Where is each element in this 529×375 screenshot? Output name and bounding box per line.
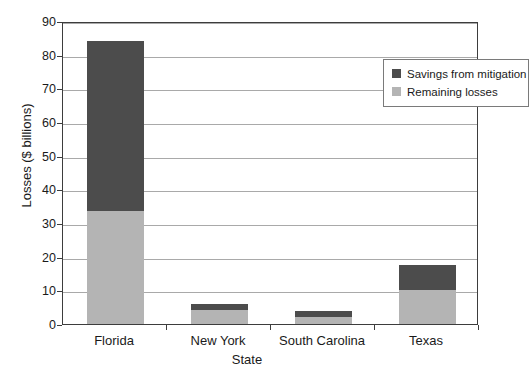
y-tick-label: 60 xyxy=(0,117,56,130)
legend-swatch-icon xyxy=(392,69,401,78)
x-tick-mark xyxy=(374,325,375,330)
bar-texas xyxy=(399,265,456,324)
bar-segment-savings-from-mitigation xyxy=(87,41,144,211)
y-tick-label: 30 xyxy=(0,218,56,231)
bar-segment-remaining-losses xyxy=(87,211,144,324)
legend-item-label: Savings from mitigation xyxy=(407,68,527,80)
y-tick-label: 50 xyxy=(0,151,56,164)
bar-segment-remaining-losses xyxy=(295,317,352,324)
legend: Savings from mitigation Remaining losses xyxy=(383,59,529,107)
legend-swatch-icon xyxy=(392,87,401,96)
x-tick-label: New York xyxy=(166,333,270,348)
bar-new-york xyxy=(191,304,248,324)
bar-segment-remaining-losses xyxy=(191,310,248,324)
x-tick-mark xyxy=(270,325,271,330)
legend-item-savings-from-mitigation: Savings from mitigation xyxy=(392,66,521,81)
bar-segment-savings-from-mitigation xyxy=(295,311,352,318)
y-tick-label: 20 xyxy=(0,252,56,265)
y-tick-mark xyxy=(57,325,62,326)
y-tick-label: 90 xyxy=(0,16,56,29)
bar-south-carolina xyxy=(295,311,352,324)
x-tick-label: Florida xyxy=(62,333,166,348)
bar-segment-remaining-losses xyxy=(399,290,456,324)
bar-florida xyxy=(87,41,144,324)
y-tick-label: 10 xyxy=(0,285,56,298)
x-tick-label: Texas xyxy=(374,333,478,348)
y-tick-label: 0 xyxy=(0,319,56,332)
y-tick-label: 70 xyxy=(0,83,56,96)
plot-area: Savings from mitigation Remaining losses xyxy=(62,22,478,325)
y-tick-label: 40 xyxy=(0,184,56,197)
legend-item-remaining-losses: Remaining losses xyxy=(392,84,521,99)
bar-segment-savings-from-mitigation xyxy=(191,304,248,310)
y-tick-label: 80 xyxy=(0,50,56,63)
x-tick-mark xyxy=(478,325,479,330)
legend-item-label: Remaining losses xyxy=(407,86,498,98)
x-tick-mark xyxy=(166,325,167,330)
bar-segment-savings-from-mitigation xyxy=(399,265,456,290)
x-axis-title: State xyxy=(0,352,494,367)
x-tick-label: South Carolina xyxy=(270,333,374,348)
gridline xyxy=(63,23,477,24)
